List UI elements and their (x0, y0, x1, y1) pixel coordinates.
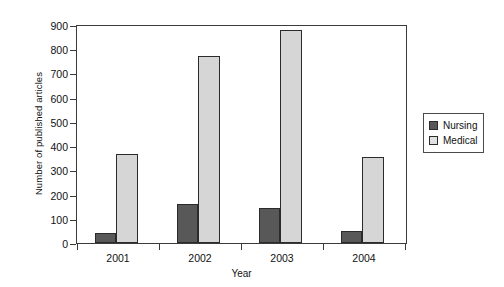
bar-chart: Number of published articles 01002003004… (0, 0, 504, 287)
bar-group (323, 26, 405, 243)
legend-item-medical[interactable]: Medical (429, 133, 477, 148)
bar-nursing-2004[interactable] (341, 231, 363, 243)
y-axis-tick-label: 400 (0, 142, 68, 152)
chart-legend: Nursing Medical (423, 113, 484, 153)
x-axis-tick-mark (159, 244, 160, 250)
bar-medical-2003[interactable] (280, 30, 302, 243)
y-axis-tick-label: 100 (0, 215, 68, 225)
y-axis-tick-label: 900 (0, 21, 68, 31)
bar-group (241, 26, 323, 243)
legend-label-medical: Medical (443, 135, 477, 146)
x-axis-tick-mark (77, 244, 78, 250)
x-axis-tick-mark (241, 244, 242, 250)
y-axis-tick-label: 300 (0, 166, 68, 176)
y-axis-title: Number of published articles (33, 34, 44, 234)
x-axis-title: Year (76, 268, 407, 279)
legend-swatch-nursing-icon (429, 121, 438, 130)
legend-label-nursing: Nursing (443, 120, 477, 131)
bar-group (77, 26, 159, 243)
y-axis-tick-label: 500 (0, 118, 68, 128)
bar-medical-2001[interactable] (116, 154, 138, 243)
x-axis-tick-label: 2004 (323, 252, 405, 264)
bar-medical-2004[interactable] (362, 157, 384, 243)
y-axis-tick-label: 700 (0, 69, 68, 79)
bar-nursing-2003[interactable] (259, 208, 281, 243)
x-axis-tick-mark (323, 244, 324, 250)
y-axis-tick-label: 600 (0, 94, 68, 104)
y-axis-tick-label: 800 (0, 45, 68, 55)
y-axis-tick-label: 200 (0, 191, 68, 201)
bars-layer (77, 26, 405, 243)
bar-medical-2002[interactable] (198, 56, 220, 243)
x-axis-tick-mark (405, 244, 406, 250)
legend-item-nursing[interactable]: Nursing (429, 118, 477, 133)
y-axis-tick-label: 0 (0, 239, 68, 249)
bar-nursing-2001[interactable] (95, 233, 117, 243)
legend-swatch-medical-icon (429, 136, 438, 145)
x-axis-tick-label: 2003 (241, 252, 323, 264)
bar-nursing-2002[interactable] (177, 204, 199, 243)
y-axis-tick-mark (70, 244, 76, 245)
x-axis-tick-label: 2001 (77, 252, 159, 264)
x-axis-tick-label: 2002 (159, 252, 241, 264)
bar-group (159, 26, 241, 243)
